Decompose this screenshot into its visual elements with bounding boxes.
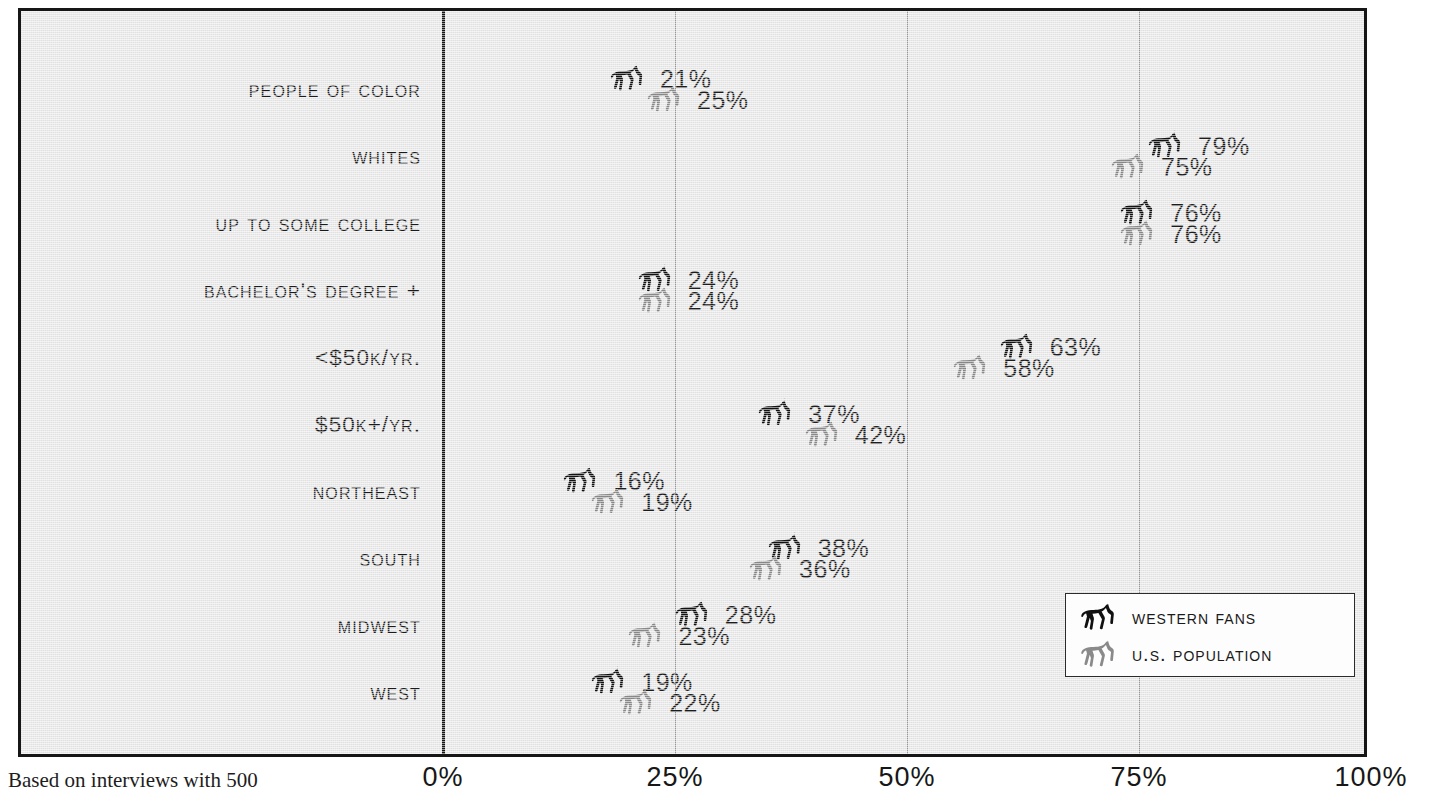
value-label: 76% <box>1170 220 1222 249</box>
value-label: 75% <box>1161 153 1213 182</box>
bar-western-fans <box>443 71 638 89</box>
bar-western-fans <box>443 473 591 491</box>
bar-us-population <box>443 159 1139 177</box>
category-label: West <box>370 680 421 706</box>
chart-row: Up to Some College76%76% <box>21 202 1364 246</box>
chart-row: Whites79%75% <box>21 135 1364 179</box>
category-label: Northeast <box>313 479 421 505</box>
x-tick-25: 25% <box>646 762 703 793</box>
value-label: 22% <box>669 689 721 718</box>
y-axis-line <box>442 11 445 754</box>
chart-row: <$50K/yr.63%58% <box>21 336 1364 380</box>
legend-item-western-fans: Western Fans <box>1080 600 1256 634</box>
value-label: 63% <box>1050 333 1102 362</box>
value-label: 36% <box>799 555 851 584</box>
bar-western-fans <box>443 607 703 625</box>
value-label: 37% <box>808 400 860 429</box>
x-tick-50: 50% <box>878 762 935 793</box>
gray-horse-icon <box>1080 639 1120 669</box>
value-label: 42% <box>855 421 907 450</box>
value-label: 24% <box>688 287 740 316</box>
bar-western-fans <box>443 540 796 558</box>
chart-row: South38%36% <box>21 537 1364 581</box>
chart-row: West19%22% <box>21 671 1364 715</box>
bar-western-fans <box>443 406 786 424</box>
value-label: 25% <box>697 86 749 115</box>
category-label: Midwest <box>338 613 421 639</box>
category-label: $50K+/yr. <box>315 412 421 438</box>
chart-row: Bachelor's Degree +24%24% <box>21 269 1364 313</box>
bar-us-population <box>443 695 647 713</box>
bar-western-fans <box>443 339 1028 357</box>
value-label: 23% <box>678 622 730 651</box>
chart-row: $50K+/yr.37%42% <box>21 403 1364 447</box>
category-label: <$50K/yr. <box>315 345 421 371</box>
category-label: People of Color <box>249 77 421 103</box>
chart-footnote: Based on interviews with 500 <box>8 768 258 793</box>
bar-us-population <box>443 226 1148 244</box>
legend-item-us-population: U.S. Population <box>1080 637 1272 671</box>
bar-western-fans <box>443 272 666 290</box>
bar-western-fans <box>443 674 619 692</box>
chart-row: Northeast16%19% <box>21 470 1364 514</box>
value-label: 58% <box>1003 354 1055 383</box>
category-label: South <box>360 546 422 572</box>
value-label: 19% <box>641 488 693 517</box>
bar-us-population <box>443 561 777 579</box>
chart-legend: Western Fans U.S. Population <box>1065 593 1355 677</box>
bar-us-population <box>443 92 675 110</box>
x-tick-0: 0% <box>422 762 463 793</box>
x-tick-100: 100% <box>1334 762 1407 793</box>
category-label: Up to Some College <box>216 211 421 237</box>
bar-western-fans <box>443 138 1176 156</box>
chart-frame: People of Color21%25%Whites79%75%Up to S… <box>18 8 1367 757</box>
value-label: 28% <box>725 601 777 630</box>
category-label: Bachelor's Degree + <box>204 278 421 304</box>
black-horse-icon <box>1080 602 1120 632</box>
bar-us-population <box>443 360 981 378</box>
bar-us-population <box>443 293 666 311</box>
legend-label: U.S. Population <box>1132 643 1272 666</box>
legend-label: Western Fans <box>1132 606 1256 629</box>
x-tick-75: 75% <box>1110 762 1167 793</box>
category-label: Whites <box>352 144 421 170</box>
bar-us-population <box>443 427 833 445</box>
chart-row: People of Color21%25% <box>21 68 1364 112</box>
bar-us-population <box>443 628 656 646</box>
bar-us-population <box>443 494 619 512</box>
bar-western-fans <box>443 205 1148 223</box>
